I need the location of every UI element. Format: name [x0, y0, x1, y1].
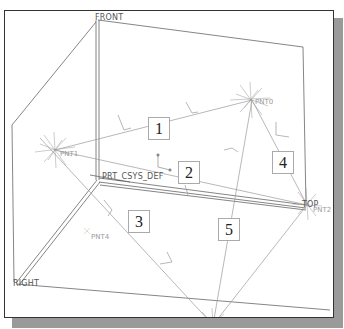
pnt4-marker-icon[interactable]	[84, 228, 90, 234]
graphics-viewport[interactable]: FRONT RIGHT TOP PRT_CSYS_DEF PNT0 PNT1 P…	[4, 10, 334, 318]
sketch-curves[interactable]	[40, 100, 307, 318]
pnt2-label[interactable]: PNT2	[313, 206, 331, 214]
pnt4-label[interactable]: PNT4	[91, 233, 109, 241]
callout-2: 2	[178, 161, 200, 184]
csys-label[interactable]: PRT_CSYS_DEF	[102, 172, 164, 181]
frame-shadow-bottom	[12, 318, 343, 328]
front-plane-label[interactable]: FRONT	[95, 13, 123, 22]
front-datum-plane[interactable]	[12, 20, 306, 282]
callout-1: 1	[148, 117, 170, 140]
frame-shadow-right	[334, 18, 343, 328]
callout-4: 4	[272, 151, 294, 174]
pnt0-label[interactable]: PNT0	[255, 98, 273, 106]
callout-3: 3	[128, 210, 150, 233]
csys-icon[interactable]	[157, 154, 171, 171]
callout-5: 5	[218, 218, 240, 241]
pnt1-label[interactable]: PNT1	[60, 150, 78, 158]
right-plane-label[interactable]: RIGHT	[13, 279, 39, 288]
